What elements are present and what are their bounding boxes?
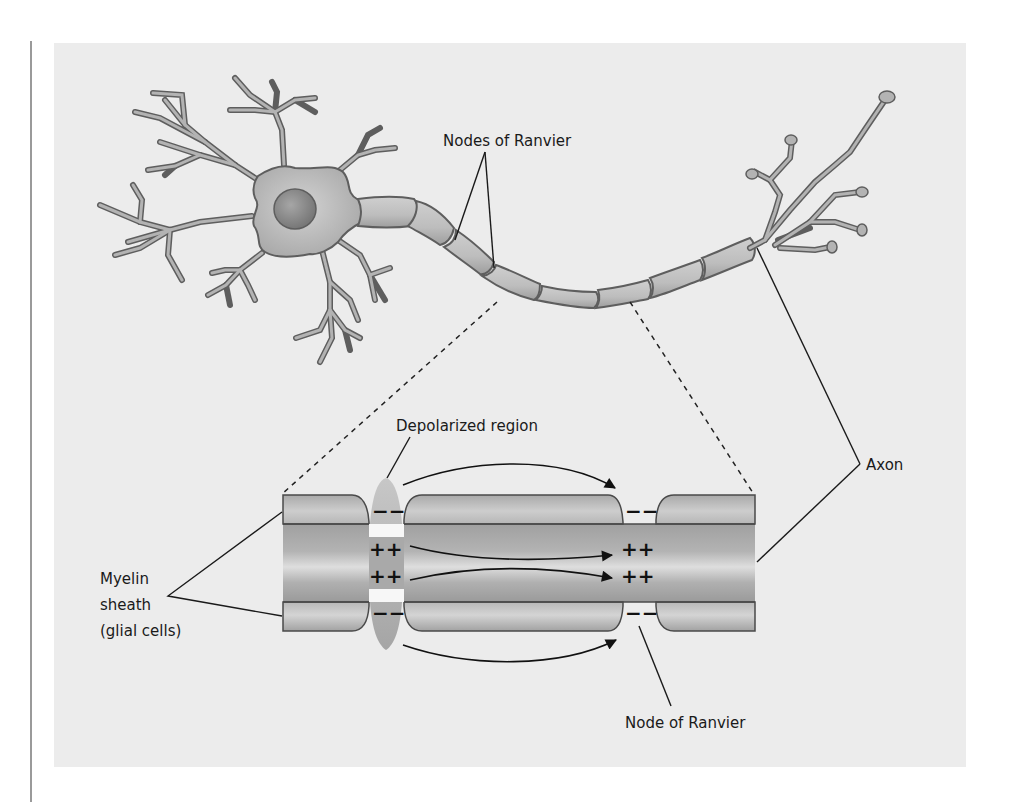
charge-positive-next-node-1: ++ <box>621 537 655 561</box>
label-myelin-sheath: Myelin sheath (glial cells) <box>100 570 181 640</box>
leader-lines-axon <box>757 248 860 562</box>
neuron-cell <box>100 78 895 362</box>
label-node-of-ranvier: Node of Ranvier <box>625 714 746 732</box>
charge-negative-top-depolarized: −− <box>372 499 406 523</box>
charge-negative-bottom-next-node: −− <box>625 601 659 625</box>
leader-line-node <box>639 626 671 706</box>
label-axon: Axon <box>866 456 903 474</box>
charge-positive-depolarized-2: ++ <box>369 564 403 588</box>
nucleus <box>274 189 316 229</box>
myelin-bottom-left <box>283 602 369 631</box>
myelin-top-middle <box>404 495 623 524</box>
membrane-gap-top <box>369 524 404 537</box>
charge-positive-depolarized-1: ++ <box>369 537 403 561</box>
axon-myelin-segments <box>358 197 755 308</box>
leader-line-depolarized <box>387 437 410 478</box>
myelin-bottom-middle <box>404 602 623 631</box>
svg-text:sheath: sheath <box>100 596 151 614</box>
neuron-diagram: Nodes of Ranvier Axon <box>0 0 1021 802</box>
enlarged-axon-section: −− ++ ++ −− −− ++ ++ −− <box>283 464 755 662</box>
label-depolarized-region: Depolarized region <box>396 417 538 435</box>
myelin-top-left <box>283 495 369 524</box>
myelin-bottom-right <box>656 602 755 631</box>
charge-positive-next-node-2: ++ <box>621 564 655 588</box>
charge-negative-bottom-depolarized: −− <box>372 601 406 625</box>
axon-core <box>283 524 755 602</box>
label-nodes-of-ranvier: Nodes of Ranvier <box>443 132 572 150</box>
myelin-top-right <box>656 495 755 524</box>
charge-negative-top-next-node: −− <box>625 499 659 523</box>
svg-text:(glial cells): (glial cells) <box>100 622 181 640</box>
leader-lines-myelin <box>168 512 282 616</box>
svg-text:Myelin: Myelin <box>100 570 149 588</box>
